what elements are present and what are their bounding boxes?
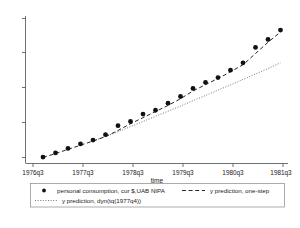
legend-marker-icon [42, 189, 46, 193]
data-point [41, 155, 46, 160]
chart-figure: 1976q3 1977q3 1978q3 1979q3 1980q3 1981q… [0, 0, 300, 228]
y-axis-ticks [22, 19, 26, 158]
data-point [228, 68, 233, 73]
x-axis-ticks [33, 164, 283, 168]
x-tick-label-5: 1981q3 [270, 169, 292, 177]
legend: personal consumption, cur $,UAB NIPA y p… [31, 184, 285, 208]
data-point [78, 142, 83, 147]
data-point [278, 28, 283, 33]
x-tick-label-1: 1977q3 [72, 169, 94, 177]
data-point [103, 132, 108, 137]
data-point [266, 37, 271, 42]
data-point [53, 151, 58, 156]
x-axis-title: time [151, 177, 164, 184]
series-dynamic-prediction-line [93, 63, 281, 141]
data-point [116, 123, 121, 128]
data-point [216, 75, 221, 80]
legend-label-onestep: y prediction, one-step [210, 187, 270, 194]
series-personal-consumption-markers [41, 28, 283, 160]
data-point [166, 101, 171, 106]
x-tick-label-3: 1979q3 [172, 169, 194, 177]
x-tick-label-2: 1978q3 [122, 169, 144, 177]
data-point [128, 119, 133, 124]
data-point [141, 112, 146, 117]
series-onestep-prediction-line [43, 32, 281, 157]
data-point [203, 80, 208, 85]
legend-label-personal-consumption: personal consumption, cur $,UAB NIPA [57, 187, 166, 194]
data-point [153, 108, 158, 113]
data-point [66, 146, 71, 151]
data-point [91, 138, 96, 143]
x-tick-label-0: 1976q3 [22, 169, 44, 177]
x-tick-label-4: 1980q3 [222, 169, 244, 177]
data-point [191, 86, 196, 91]
timeseries-plot: 1976q3 1977q3 1978q3 1979q3 1980q3 1981q… [0, 0, 300, 228]
legend-label-dynamic: y prediction, dyn(tq(1977q4)) [62, 197, 141, 204]
data-point [178, 94, 183, 99]
data-point [253, 45, 258, 50]
data-point [241, 60, 246, 65]
